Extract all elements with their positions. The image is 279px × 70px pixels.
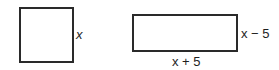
rectangle-width-label: x + 5 [172,55,201,68]
square-side-label: x [76,28,83,41]
rectangle-height-label: x − 5 [241,27,270,40]
square-shape [19,7,74,63]
rectangle-shape [132,14,238,52]
